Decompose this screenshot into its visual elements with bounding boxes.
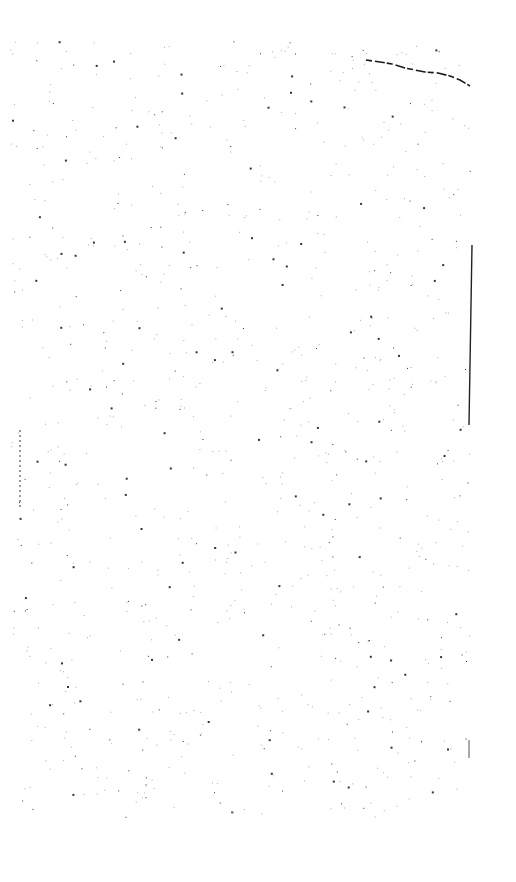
speckles: [10, 41, 470, 818]
scan-noise: [0, 0, 516, 882]
right-edge-line: [469, 245, 472, 425]
top-right-edge-mark: [366, 60, 470, 86]
blank-scanned-page: [0, 0, 516, 882]
